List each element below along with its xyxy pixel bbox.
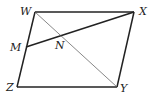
label-w: W	[20, 5, 33, 18]
label-z: Z	[5, 81, 14, 94]
label-x: X	[138, 5, 148, 18]
label-n: N	[54, 39, 65, 52]
segment-wy-diagonal	[35, 12, 117, 87]
segment-mx	[26, 12, 134, 47]
label-y: Y	[120, 82, 129, 95]
parallelogram-diagram: W X M N Z Y	[0, 0, 152, 99]
label-m: M	[9, 41, 22, 54]
segment-xy	[117, 12, 134, 87]
